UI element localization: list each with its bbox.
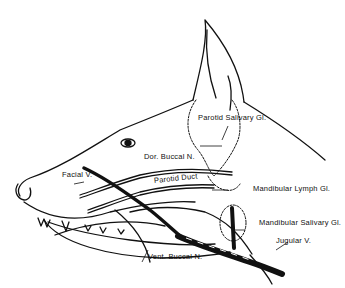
label-mandibular-salivary-gland: Mandibular Salivary Gl. (259, 218, 341, 227)
ear-inner-line (207, 30, 216, 98)
label-dor-buccal-nerve: Dor. Buccal N. (144, 152, 195, 161)
upper-lip (24, 202, 195, 218)
label-mandibular-lymph-gland: Mandibular Lymph Gl. (253, 184, 330, 193)
maxillary-vein (232, 208, 234, 248)
label-parotid-salivary-gland: Parotid Salivary Gl. (198, 113, 266, 122)
label-vent-buccal-nerve: Vent. Buccal N. (148, 252, 202, 261)
tongue (55, 222, 165, 235)
label-jugular-vein: Jugular V. (276, 236, 311, 245)
ear-outline (193, 20, 244, 102)
neck-outline (244, 102, 325, 160)
parotid-gland (188, 100, 240, 176)
label-facial-vein: Facial V. (62, 170, 92, 179)
